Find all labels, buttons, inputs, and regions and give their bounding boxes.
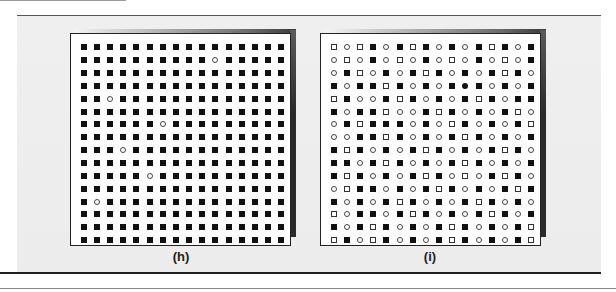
grid-cell [459,105,472,118]
filled-square-icon [476,211,482,217]
grid-cell [222,157,235,170]
open-circle-icon [528,147,534,153]
filled-square-icon [515,173,521,179]
grid-cell [446,131,459,144]
filled-square-icon [94,186,100,192]
grid-cell [419,208,432,221]
filled-square-icon [199,199,205,205]
grid-cell [130,80,143,93]
filled-square-icon [226,199,232,205]
grid-cell [77,195,90,208]
grid-cell [485,80,498,93]
open-square-icon [502,147,508,153]
open-circle-icon [476,121,482,127]
grid-cell [90,182,103,195]
filled-square-icon [133,109,139,115]
filled-square-icon [133,199,139,205]
grid-cell [248,54,261,67]
open-square-icon [436,186,442,192]
grid-cell [117,54,130,67]
grid-cell [367,41,380,54]
grid-cell [143,41,156,54]
filled-square-icon [160,44,166,50]
filled-square-icon [160,83,166,89]
grid-cell [393,67,406,80]
grid-cell [77,144,90,157]
filled-square-icon [81,224,87,230]
grid-cell [77,131,90,144]
grid-cell [367,195,380,208]
grid-cell [380,144,393,157]
open-circle-icon [410,160,416,166]
grid-cell [433,208,446,221]
filled-square-icon [212,211,218,217]
filled-square-icon [133,134,139,140]
grid-cell [393,105,406,118]
grid-cell [130,144,143,157]
open-square-icon [462,134,468,140]
filled-square-icon [212,147,218,153]
filled-square-icon [252,160,258,166]
grid-cell [498,169,511,182]
grid-cell [209,234,222,247]
grid-cell [353,234,366,247]
grid-cell [327,169,340,182]
filled-square-icon [436,96,442,102]
grid-cell [512,144,525,157]
grid-cell [235,41,248,54]
grid-cell [419,182,432,195]
open-circle-icon [436,121,442,127]
grid-cell [472,195,485,208]
open-circle-icon [515,57,521,63]
grid-cell [248,80,261,93]
filled-square-icon [81,109,87,115]
grid-cell [262,131,275,144]
filled-square-icon [212,109,218,115]
grid-cell [353,67,366,80]
grid-cell [340,80,353,93]
open-square-icon [476,199,482,205]
grid-cell [143,182,156,195]
filled-square-icon [226,44,232,50]
grid-cell [340,234,353,247]
grid-cell [169,208,182,221]
grid-cell [433,92,446,105]
filled-square-icon [278,109,284,115]
grid-cell [90,105,103,118]
open-square-icon [502,57,508,63]
grid-cell [117,208,130,221]
grid-cell [275,157,288,170]
filled-square-icon [344,160,350,166]
filled-square-icon [147,44,153,50]
grid-cell [183,182,196,195]
filled-square-icon [278,211,284,217]
filled-square-icon [476,160,482,166]
filled-square-icon [265,147,271,153]
filled-square-icon [423,211,429,217]
grid-cell [183,80,196,93]
grid-cell [196,118,209,131]
filled-square-icon [160,186,166,192]
grid-cell [459,169,472,182]
open-circle-icon [436,44,442,50]
grid-cell [472,92,485,105]
grid-cell [156,131,169,144]
grid-cell [103,208,116,221]
filled-square-icon [94,121,100,127]
filled-square-icon [226,96,232,102]
filled-square-icon [462,96,468,102]
filled-square-icon [462,147,468,153]
grid-cell [353,182,366,195]
filled-square-icon [265,44,271,50]
grid-cell [77,92,90,105]
open-circle-icon [344,44,350,50]
grid-cell [183,157,196,170]
grid-cell [446,41,459,54]
open-circle-icon [160,121,166,127]
filled-square-icon [120,109,126,115]
grid-cell [433,182,446,195]
filled-square-icon [120,44,126,50]
filled-square-icon [81,237,87,243]
filled-square-icon [173,44,179,50]
grid-cell [222,118,235,131]
